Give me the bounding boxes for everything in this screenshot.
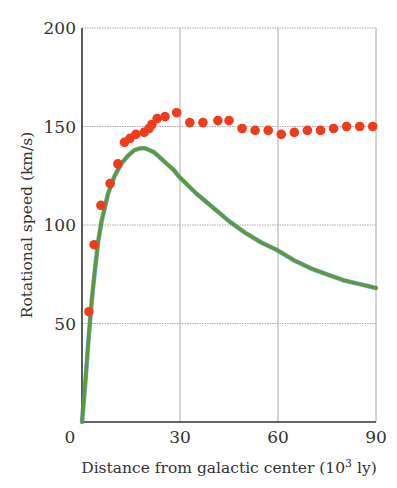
data-point [160, 112, 170, 122]
x-tick-label: 90 [365, 427, 387, 447]
data-point [213, 116, 223, 126]
tick-labels: 030609050100150200 [44, 18, 387, 447]
y-axis-label: Rotational speed (km/s) [18, 132, 36, 319]
data-point [290, 128, 300, 138]
data-point [263, 126, 273, 136]
data-point [342, 122, 352, 132]
data-point [172, 108, 182, 118]
x-axis-label: Distance from galactic center (103 ly) [81, 457, 377, 477]
x-tick-label: 30 [169, 427, 191, 447]
rotation-curve-chart: 030609050100150200 Distance from galacti… [0, 0, 397, 488]
data-point [113, 159, 123, 169]
data-point [185, 118, 195, 128]
data-point [224, 116, 234, 126]
data-point [250, 126, 260, 136]
expected-curve [82, 148, 376, 422]
curve-edge [82, 148, 376, 422]
data-point [198, 118, 208, 128]
data-point [96, 201, 106, 211]
x-tick-label: 0 [65, 427, 76, 447]
data-point [355, 122, 365, 132]
data-point [131, 130, 141, 140]
y-tick-label: 100 [44, 215, 76, 235]
data-point [105, 179, 115, 189]
axes [82, 28, 376, 422]
data-point [277, 130, 287, 140]
data-point [237, 124, 247, 134]
data-point [84, 307, 94, 317]
data-point [89, 240, 99, 250]
y-tick-label: 50 [54, 314, 76, 334]
y-tick-label: 150 [44, 117, 76, 137]
data-point [368, 122, 378, 132]
data-point [303, 126, 313, 136]
data-point [329, 124, 339, 134]
observed-data-points [84, 108, 377, 317]
gridlines [82, 28, 376, 422]
x-tick-label: 60 [267, 427, 289, 447]
curve-line [82, 148, 376, 422]
y-tick-label: 200 [44, 18, 76, 38]
data-point [316, 126, 326, 136]
